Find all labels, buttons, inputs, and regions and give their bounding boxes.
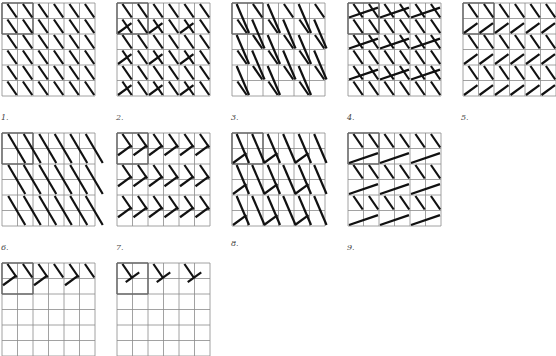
- pattern-label-7: 7.: [116, 243, 124, 252]
- pattern-grid-2: [117, 3, 210, 96]
- pattern-grid-10: [2, 263, 95, 356]
- pattern-label-2: 2.: [116, 113, 124, 122]
- pattern-grid-5: [463, 3, 556, 96]
- pattern-label-3: 3.: [231, 113, 239, 122]
- pattern-grid-11: [117, 263, 210, 356]
- pattern-label-8: 8.: [231, 239, 239, 248]
- pattern-grid-4: [348, 3, 441, 96]
- pattern-label-6: 6.: [1, 243, 9, 252]
- pattern-grid-9: [348, 133, 441, 226]
- pattern-grid-7: [117, 133, 210, 226]
- pattern-label-5: 5.: [461, 113, 469, 122]
- pattern-grid-1: [2, 3, 95, 96]
- pattern-grid-8: [232, 133, 325, 226]
- pattern-label-1: 1.: [1, 113, 9, 122]
- pattern-grid-3: [232, 3, 325, 96]
- pattern-grid-6: [2, 133, 95, 226]
- pattern-label-4: 4.: [347, 113, 355, 122]
- pattern-label-9: 9.: [347, 243, 355, 252]
